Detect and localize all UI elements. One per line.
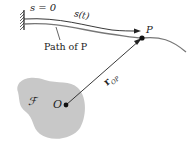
origin-point-o (64, 103, 69, 108)
label-path-of-p: Path of P (44, 42, 87, 52)
reference-frame-region (17, 78, 85, 139)
label-s-zero: s = 0 (30, 3, 56, 13)
label-point-p: P (146, 25, 153, 35)
kinematics-diagram (0, 0, 189, 146)
point-p (139, 35, 144, 40)
label-frame-f: ℱ (28, 96, 37, 107)
path-label-leader (56, 27, 60, 40)
arc-length-arrowhead (134, 29, 141, 34)
label-origin-o: O (53, 99, 62, 110)
